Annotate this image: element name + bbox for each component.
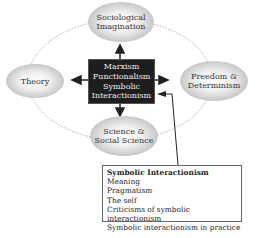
center-line: Symbolic: [89, 82, 154, 92]
node-label: Determinism: [188, 81, 240, 90]
arrow-up-icon: [116, 45, 124, 53]
pointer-arrow-icon: [157, 91, 166, 97]
node-label: Freedom &: [188, 72, 240, 81]
info-box: Symbolic Interactionism Meaning Pragmati…: [102, 165, 242, 222]
info-item: Criticisms of symbolic interactionism: [107, 205, 241, 223]
center-line: Interactionism: [89, 91, 154, 101]
arrow-right-icon: [159, 76, 168, 84]
node-sociological-imagination: SociologicalImagination: [88, 2, 154, 42]
info-box-title: Symbolic Interactionism: [107, 168, 241, 177]
info-item: Symbolic interactionism in practice: [107, 223, 241, 232]
center-line: Marxism: [89, 62, 154, 72]
center-theories-box: Marxism Functionalism Symbolic Interacti…: [88, 59, 155, 104]
node-theory: Theory: [6, 64, 64, 98]
node-freedom-determinism: Freedom &Determinism: [180, 61, 248, 101]
info-item: The self: [107, 196, 241, 205]
node-label: Science &: [95, 127, 154, 136]
node-label: Sociological: [96, 13, 145, 22]
info-item: Pragmatism: [107, 186, 241, 195]
node-label: Social Science: [95, 136, 154, 145]
info-item: Meaning: [107, 177, 241, 186]
node-science-social-science: Science &Social Science: [90, 116, 158, 156]
arrow-down-icon: [116, 108, 124, 116]
center-line: Functionalism: [89, 72, 154, 82]
node-label: Theory: [21, 77, 49, 86]
arrow-left-icon: [72, 76, 81, 84]
node-label: Imagination: [96, 22, 145, 31]
